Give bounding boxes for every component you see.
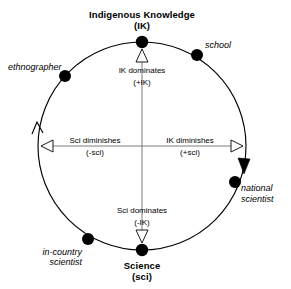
node-ik-pole [136,36,148,48]
ik-dominates-label-line2: (+IK) [133,78,151,87]
diagram-canvas: Indigenous Knowledge (IK) Science (sci) … [0,0,291,289]
sci-dominates-arrowhead [136,230,148,243]
circle-arc-left [38,42,142,146]
sci-diminishes-label-line1: Sci diminishes [69,136,120,145]
sci-pole-label-line2: (sci) [132,271,152,282]
in-country-scientist-label-line2: scientist [49,257,82,267]
in-country-scientist-label-line1: in-country [42,247,82,257]
ik-dominates-label-line1: IK dominates [119,66,166,75]
circle-arc-right-lower [142,146,246,250]
node-national-scientist [229,176,241,188]
sci-pole-label-line1: Science [124,260,161,271]
national-scientist-label-line2: scientist [241,194,274,204]
node-school [191,49,203,61]
ik-diminishes-arrowhead [231,140,243,152]
sci-diminishes-arrowhead [41,140,53,152]
ik-diminishes-label-line2: (+sci) [180,148,200,157]
ik-pole-label-line2: (IK) [134,20,150,31]
node-in-country-scientist [82,233,94,245]
right-arc-arrowhead [238,158,250,174]
knowledge-cycle-diagram: Indigenous Knowledge (IK) Science (sci) … [0,0,291,289]
node-sci-pole [136,244,148,256]
sci-dominates-label-line2: (-IK) [134,218,150,227]
left-arc-arrowhead [32,122,43,134]
ik-dominates-arrowhead [136,49,148,62]
national-scientist-label-line1: national [241,183,274,193]
ethnographer-label: ethnographer [8,62,63,72]
school-label: school [205,40,232,50]
sci-diminishes-label-line2: (-sci) [86,148,104,157]
sci-dominates-label-line1: Sci dominates [117,206,167,215]
ik-pole-label-line1: Indigenous Knowledge [89,9,195,20]
ik-diminishes-label-line1: IK diminishes [166,136,214,145]
